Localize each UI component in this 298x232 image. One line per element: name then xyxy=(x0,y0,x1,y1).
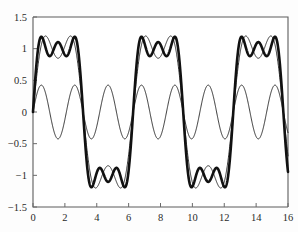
x-tick-label: 8 xyxy=(158,212,163,223)
x-tick-label: 10 xyxy=(187,212,198,223)
y-tick-label: −1 xyxy=(16,170,27,181)
x-tick-label: 2 xyxy=(62,212,67,223)
y-tick-label: −1.5 xyxy=(8,202,27,213)
y-tick-label: −0.5 xyxy=(8,138,27,149)
x-tick-label: 14 xyxy=(251,212,262,223)
x-axis-tick-labels: 0246810121416 xyxy=(30,212,293,223)
x-tick-label: 0 xyxy=(30,212,35,223)
x-tick-label: 6 xyxy=(126,212,131,223)
y-tick-label: 0 xyxy=(22,107,27,118)
x-tick-label: 12 xyxy=(219,212,230,223)
y-axis-tick-labels: −1.5−1−0.500.511.5 xyxy=(8,12,27,213)
y-tick-label: 1 xyxy=(22,43,27,54)
y-tick-label: 0.5 xyxy=(14,75,27,86)
x-tick-label: 16 xyxy=(283,212,294,223)
x-tick-label: 4 xyxy=(94,212,100,223)
line-chart: −1.5−1−0.500.511.5 0246810121416 xyxy=(0,0,298,232)
figure-container: −1.5−1−0.500.511.5 0246810121416 xyxy=(0,0,298,232)
y-tick-label: 1.5 xyxy=(14,12,27,23)
